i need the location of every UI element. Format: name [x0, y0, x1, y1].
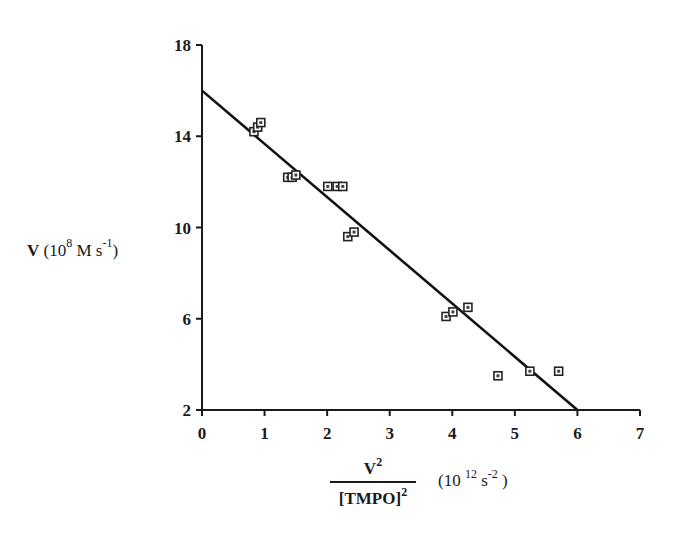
y-units-open: (10 [39, 241, 66, 260]
x-tick-label: 2 [323, 424, 332, 443]
x-tick-label: 5 [511, 424, 520, 443]
data-point-square [292, 171, 300, 179]
data-point-square [449, 308, 457, 316]
denominator-exponent: 2 [401, 485, 407, 499]
data-point-square [494, 372, 502, 380]
x-tick-label: 6 [573, 424, 582, 443]
x-units-exponent-2: -2 [488, 467, 498, 481]
data-points [250, 119, 563, 380]
fraction-denominator: [TMPO]2 [339, 483, 407, 509]
x-tick-label: 3 [385, 424, 394, 443]
x-units-open: (10 [438, 471, 465, 490]
x-tick-label: 0 [198, 424, 207, 443]
axes [201, 45, 640, 411]
x-tick-label: 4 [448, 424, 457, 443]
y-tick-label: 14 [174, 127, 192, 146]
data-point-square [555, 367, 563, 375]
x-tick-label: 1 [260, 424, 269, 443]
x-axis-units: (10 12 s-2 ) [438, 467, 508, 491]
fraction-numerator: V2 [364, 455, 382, 481]
x-units-close: ) [498, 471, 508, 490]
x-units-mid: s [477, 471, 488, 490]
y-units-mid: M s [72, 241, 102, 260]
y-axis-label: V (108 M s-1) [27, 236, 118, 261]
fit-line [202, 91, 577, 410]
data-point-square [324, 182, 332, 190]
axis-ticks: 0123456726101418 [174, 36, 645, 443]
y-tick-label: 6 [183, 310, 192, 329]
y-tick-label: 2 [183, 401, 192, 420]
data-point-square [350, 228, 358, 236]
data-point-square [257, 119, 265, 127]
y-units-close: ) [112, 241, 118, 260]
numerator-exponent: 2 [376, 455, 382, 469]
denominator-text: [TMPO] [339, 489, 401, 508]
data-point-square [526, 367, 534, 375]
data-point-square [339, 182, 347, 190]
y-units-exponent-2: -1 [102, 236, 112, 250]
x-units-exponent: 12 [465, 467, 477, 481]
numerator-text: V [364, 459, 376, 478]
y-tick-label: 10 [174, 219, 191, 238]
y-axis-symbol: V [27, 241, 39, 260]
y-tick-label: 18 [174, 36, 191, 55]
x-tick-label: 7 [636, 424, 645, 443]
data-point-square [464, 303, 472, 311]
x-axis-fraction: V2 [TMPO]2 [330, 455, 416, 509]
x-axis-label: V2 [TMPO]2 (10 12 s-2 ) [330, 455, 508, 509]
regression-line [202, 91, 577, 410]
